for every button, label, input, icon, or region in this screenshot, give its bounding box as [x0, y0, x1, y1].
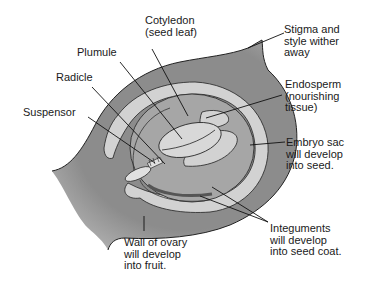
label-embryo-sac-line3: into seed. — [286, 160, 344, 172]
label-ovary-wall: Wall of ovary will develop into fruit. — [124, 237, 187, 272]
label-stigma: Stigma and style wither away — [284, 24, 340, 59]
label-integuments-line3: into seed coat. — [270, 246, 342, 258]
label-embryo-sac: Embryo sac will develop into seed. — [286, 137, 344, 172]
label-radicle-line1: Radicle — [56, 72, 93, 84]
label-stigma-line3: away — [284, 47, 340, 59]
label-endosperm-line3: tissue) — [285, 102, 341, 114]
label-cotyledon-line2: (seed leaf) — [145, 27, 197, 39]
label-plumule-line1: Plumule — [77, 47, 117, 59]
label-cotyledon-line1: Cotyledon — [145, 15, 197, 27]
label-plumule: Plumule — [77, 47, 117, 59]
label-suspensor-line1: Suspensor — [23, 107, 76, 119]
label-embryo-sac-line1: Embryo sac — [286, 137, 344, 149]
label-ovary-wall-line1: Wall of ovary — [124, 237, 187, 249]
label-ovary-wall-line3: into fruit. — [124, 260, 187, 272]
label-cotyledon: Cotyledon (seed leaf) — [145, 15, 197, 38]
label-integuments: Integuments will develop into seed coat. — [270, 223, 342, 258]
label-endosperm-line1: Endosperm — [285, 79, 341, 91]
label-radicle: Radicle — [56, 72, 93, 84]
label-endosperm: Endosperm (nourishing tissue) — [285, 79, 341, 114]
label-stigma-line1: Stigma and — [284, 24, 340, 36]
label-suspensor: Suspensor — [23, 107, 76, 119]
label-integuments-line1: Integuments — [270, 223, 342, 235]
